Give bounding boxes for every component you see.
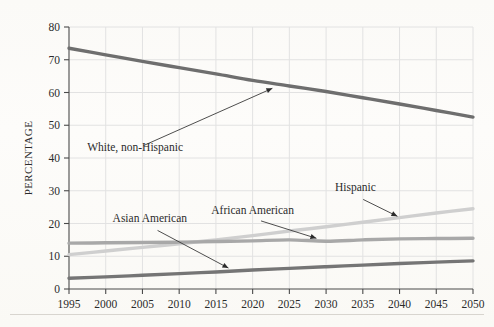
y-tick-label: 10 bbox=[49, 250, 61, 262]
y-tick-label: 40 bbox=[49, 152, 61, 164]
x-tick-label: 2010 bbox=[168, 298, 191, 310]
x-tick-label: 2040 bbox=[388, 298, 411, 310]
line-chart: 0102030405060708019952000200520102015202… bbox=[0, 0, 494, 327]
y-tick-label: 50 bbox=[49, 119, 61, 131]
series-line-asian-american bbox=[69, 261, 473, 278]
y-tick-label: 60 bbox=[49, 87, 61, 99]
x-tick-label: 2045 bbox=[425, 298, 448, 310]
series-line-white-non-hispanic bbox=[69, 48, 473, 117]
x-axis-ticks: 1995200020052010201520202025203020352040… bbox=[58, 289, 485, 310]
chart-figure: 0102030405060708019952000200520102015202… bbox=[0, 0, 494, 327]
y-tick-label: 30 bbox=[49, 185, 61, 197]
x-tick-label: 2005 bbox=[131, 298, 154, 310]
annotation-arrow-line bbox=[158, 230, 229, 268]
y-tick-label: 70 bbox=[49, 54, 61, 66]
x-tick-label: 2035 bbox=[351, 298, 374, 310]
x-tick-label: 2025 bbox=[278, 298, 301, 310]
y-axis-ticks: 01020304050607080 bbox=[49, 21, 70, 295]
y-axis-title: PERCENTAGE bbox=[22, 121, 34, 196]
y-tick-label: 80 bbox=[49, 21, 61, 33]
annotation-label: African American bbox=[211, 204, 294, 216]
y-tick-label: 0 bbox=[54, 283, 60, 295]
x-tick-label: 2000 bbox=[94, 298, 117, 310]
x-tick-label: 2015 bbox=[204, 298, 227, 310]
bottom-divider-rule bbox=[10, 314, 484, 315]
annotation-label: White, non-Hispanic bbox=[87, 141, 183, 154]
annotation-label: Asian American bbox=[113, 212, 188, 224]
data-series-group bbox=[69, 48, 473, 278]
x-tick-label: 2020 bbox=[241, 298, 264, 310]
x-tick-label: 1995 bbox=[58, 298, 81, 310]
x-tick-label: 2030 bbox=[315, 298, 338, 310]
series-line-african-american bbox=[69, 238, 473, 243]
x-tick-label: 2050 bbox=[462, 298, 485, 310]
annotation-label: Hispanic bbox=[335, 181, 376, 194]
y-tick-label: 20 bbox=[49, 218, 61, 230]
annotation-arrowhead bbox=[310, 234, 317, 239]
